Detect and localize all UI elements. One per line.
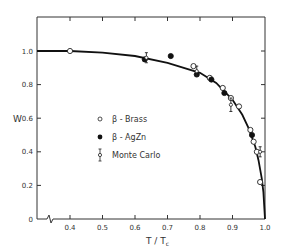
x-tick-label: 0.5 (97, 224, 108, 232)
y-tick-label: 1.0 (22, 48, 33, 56)
x-tick-label: 0.6 (129, 224, 141, 232)
theory-curve (37, 51, 265, 219)
brass-point (251, 139, 256, 144)
x-axis-label: T / Tc (145, 236, 169, 247)
brass-point (236, 104, 241, 109)
agzn-point (249, 132, 254, 137)
x-tick-label: 0.8 (194, 224, 205, 232)
data-points (67, 48, 262, 184)
y-tick-label: 0.2 (22, 182, 33, 190)
legend-label: β - Brass (112, 115, 147, 124)
y-tick-label: 0 (29, 216, 33, 224)
legend-errorbar-icon (98, 149, 101, 161)
monte-carlo-point (259, 150, 262, 153)
legend-label: β - AgZn (112, 133, 146, 142)
monte-carlo-point (145, 56, 148, 59)
chart: 0.40.50.60.70.80.91.000.20.40.60.81.0 β … (0, 0, 281, 250)
monte-carlo-point (195, 70, 198, 73)
legend-filled-circle-icon (98, 135, 103, 140)
agzn-point (168, 53, 173, 58)
x-tick-label: 0.7 (162, 224, 173, 232)
plot-frame (37, 17, 265, 223)
x-tick-label: 1.0 (259, 224, 270, 232)
y-tick-label: 0.8 (22, 81, 33, 89)
axis-ticks: 0.40.50.60.70.80.91.000.20.40.60.81.0 (22, 17, 271, 232)
brass-point (67, 48, 72, 53)
monte-carlo-point (229, 103, 232, 106)
brass-point (258, 179, 263, 184)
x-tick-label: 0.4 (64, 224, 76, 232)
brass-point (220, 85, 225, 90)
y-tick-label: 0.4 (22, 148, 34, 156)
legend-label: Monte Carlo (112, 151, 160, 160)
agzn-point (222, 90, 227, 95)
brass-point (248, 127, 253, 132)
x-tick-label: 0.9 (227, 224, 238, 232)
y-axis-label: W (13, 114, 22, 124)
y-tick-label: 0.6 (22, 115, 34, 123)
legend: β - Brassβ - AgZnMonte Carlo (98, 115, 161, 161)
legend-open-circle-icon (98, 117, 102, 121)
agzn-point (209, 77, 214, 82)
